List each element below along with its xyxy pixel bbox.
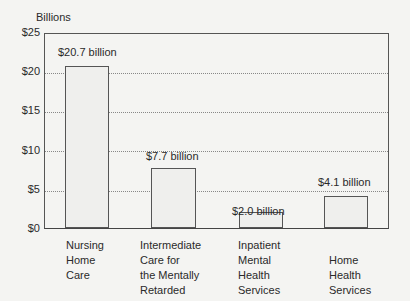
y-tick-20: $20 xyxy=(0,65,40,77)
y-tick-5: $5 xyxy=(0,183,40,195)
y-tick-0: $0 xyxy=(0,222,40,234)
plot-area xyxy=(44,33,389,229)
value-label-intermediate-care: $7.7 billion xyxy=(146,150,199,162)
bar-home-health xyxy=(324,196,368,228)
category-inpatient-mental-health: Inpatient Mental Health Services xyxy=(238,238,280,298)
category-home-health: Home Health Services xyxy=(329,253,371,298)
y-tick-10: $10 xyxy=(0,144,40,156)
bar-intermediate-care xyxy=(151,168,196,228)
y-tick-15: $15 xyxy=(0,104,40,116)
bar-nursing-home-care xyxy=(65,66,109,228)
y-tick-25: $25 xyxy=(0,26,40,38)
category-intermediate-care: Intermediate Care for the Mentally Retar… xyxy=(140,238,201,298)
category-nursing-home-care: Nursing Home Care xyxy=(66,238,104,283)
value-label-inpatient-mental-health: $2.0 billion xyxy=(232,205,285,217)
value-label-home-health: $4.1 billion xyxy=(318,176,371,188)
y-axis-title: Billions xyxy=(36,11,71,23)
value-label-nursing-home-care: $20.7 billion xyxy=(58,46,117,58)
